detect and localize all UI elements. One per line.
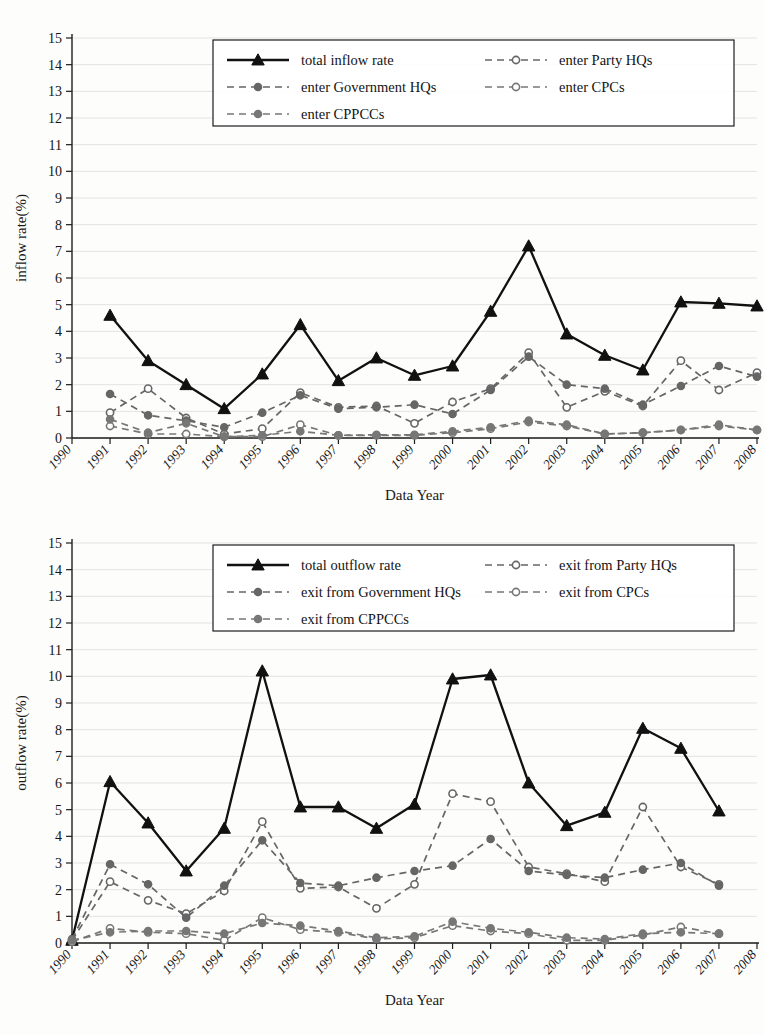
legend-marker-sample bbox=[254, 588, 261, 595]
data-point-marker bbox=[753, 373, 760, 380]
data-point-marker bbox=[335, 882, 342, 889]
data-point-marker bbox=[373, 874, 380, 881]
data-point-marker bbox=[715, 362, 722, 369]
data-point-marker bbox=[370, 822, 382, 833]
legend-label: enter Government HQs bbox=[301, 79, 437, 95]
data-point-marker bbox=[525, 353, 532, 360]
x-axis: 1990199119921993199419951996199719981999… bbox=[45, 438, 759, 472]
x-tick-label: 1993 bbox=[159, 442, 188, 472]
y-tick-label: 9 bbox=[55, 696, 62, 711]
data-point-marker bbox=[449, 428, 456, 435]
data-point-marker bbox=[563, 404, 570, 411]
y-tick-label: 10 bbox=[48, 669, 62, 684]
data-point-marker bbox=[145, 927, 152, 934]
data-point-marker bbox=[753, 426, 760, 433]
data-point-marker bbox=[525, 867, 532, 874]
y-tick-label: 4 bbox=[55, 324, 62, 339]
y-axis: 0123456789101112131415 bbox=[48, 536, 72, 951]
x-tick-label: 2001 bbox=[464, 442, 493, 472]
x-tick-label: 2003 bbox=[540, 947, 569, 977]
data-point-marker bbox=[677, 382, 684, 389]
x-tick-label: 1993 bbox=[159, 947, 188, 977]
data-point-marker bbox=[639, 429, 646, 436]
x-tick-label: 1995 bbox=[235, 947, 264, 977]
legend-label: exit from Party HQs bbox=[559, 557, 677, 573]
data-point-marker bbox=[145, 429, 152, 436]
data-point-marker bbox=[221, 433, 228, 440]
data-point-marker bbox=[411, 401, 418, 408]
data-point-marker bbox=[68, 937, 75, 944]
data-point-marker bbox=[561, 328, 573, 339]
chart-panel-inflow: 0123456789101112131415inflow rate(%)1990… bbox=[0, 10, 764, 510]
data-point-marker bbox=[637, 722, 649, 733]
data-point-marker bbox=[411, 431, 418, 438]
data-point-marker bbox=[221, 930, 228, 937]
x-tick-label: 2006 bbox=[654, 947, 683, 977]
y-tick-label: 8 bbox=[55, 723, 62, 738]
x-tick-label: 2001 bbox=[464, 947, 493, 977]
legend-marker-sample bbox=[254, 615, 261, 622]
x-tick-label: 1990 bbox=[45, 442, 74, 472]
y-axis-title: inflow rate(%) bbox=[13, 194, 30, 282]
data-point-marker bbox=[449, 410, 456, 417]
data-point-marker bbox=[599, 349, 611, 360]
x-axis: 1990199119921993199419951996199719981999… bbox=[45, 943, 759, 977]
chart-legend: total inflow rateenter Party HQsenter Go… bbox=[213, 40, 734, 126]
data-point-marker bbox=[221, 424, 228, 431]
y-tick-label: 14 bbox=[48, 563, 62, 578]
data-series bbox=[68, 790, 722, 944]
y-tick-label: 4 bbox=[55, 829, 62, 844]
data-point-marker bbox=[563, 934, 570, 941]
data-point-marker bbox=[373, 431, 380, 438]
x-tick-label: 1998 bbox=[349, 442, 378, 472]
x-tick-label: 1994 bbox=[197, 947, 226, 977]
data-point-marker bbox=[715, 930, 722, 937]
data-point-marker bbox=[335, 405, 342, 412]
data-point-marker bbox=[145, 897, 152, 904]
data-point-marker bbox=[335, 432, 342, 439]
inflow-chart-svg: 0123456789101112131415inflow rate(%)1990… bbox=[0, 10, 764, 510]
data-point-marker bbox=[487, 798, 494, 805]
x-tick-label: 1996 bbox=[273, 947, 302, 977]
series-line bbox=[72, 839, 719, 939]
x-tick-label: 2006 bbox=[654, 442, 683, 472]
data-series bbox=[66, 665, 725, 945]
data-point-marker bbox=[449, 790, 456, 797]
data-point-marker bbox=[259, 919, 266, 926]
data-point-marker bbox=[297, 879, 304, 886]
legend-label: total outflow rate bbox=[301, 557, 401, 573]
y-tick-label: 14 bbox=[48, 58, 62, 73]
data-point-marker bbox=[487, 424, 494, 431]
x-tick-label: 1994 bbox=[197, 442, 226, 472]
y-tick-label: 11 bbox=[49, 643, 62, 658]
data-point-marker bbox=[522, 240, 534, 251]
data-point-marker bbox=[677, 929, 684, 936]
legend-label: exit from CPPCCs bbox=[301, 611, 409, 627]
x-tick-label: 1999 bbox=[388, 442, 417, 472]
data-point-marker bbox=[449, 862, 456, 869]
x-tick-label: 2007 bbox=[692, 441, 722, 472]
data-point-marker bbox=[411, 867, 418, 874]
data-point-marker bbox=[484, 305, 496, 316]
data-point-marker bbox=[601, 385, 608, 392]
data-point-marker bbox=[411, 881, 418, 888]
data-point-marker bbox=[104, 309, 116, 320]
x-tick-label: 2004 bbox=[578, 442, 607, 472]
data-point-marker bbox=[106, 929, 113, 936]
data-point-marker bbox=[487, 925, 494, 932]
y-tick-label: 7 bbox=[55, 244, 62, 259]
y-tick-label: 15 bbox=[48, 536, 62, 551]
x-tick-label: 1996 bbox=[273, 442, 302, 472]
data-point-marker bbox=[563, 871, 570, 878]
data-point-marker bbox=[373, 404, 380, 411]
y-tick-label: 11 bbox=[49, 138, 62, 153]
data-point-marker bbox=[259, 409, 266, 416]
legend-label: total inflow rate bbox=[301, 52, 394, 68]
data-point-marker bbox=[106, 390, 113, 397]
x-tick-label: 1997 bbox=[311, 441, 341, 472]
data-point-marker bbox=[145, 412, 152, 419]
data-point-marker bbox=[259, 432, 266, 439]
data-point-marker bbox=[335, 927, 342, 934]
data-point-marker bbox=[373, 905, 380, 912]
data-point-marker bbox=[408, 798, 420, 809]
